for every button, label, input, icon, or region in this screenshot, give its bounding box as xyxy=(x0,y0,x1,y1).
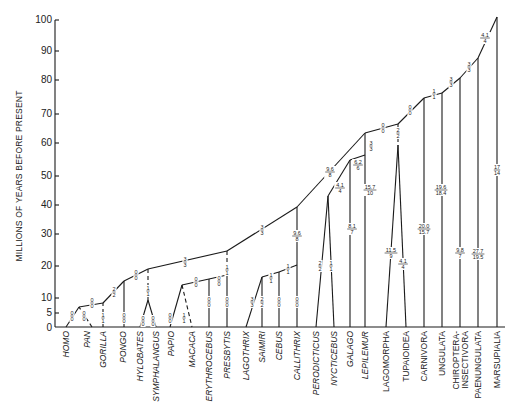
branch-label: 8.17 xyxy=(346,223,358,235)
y-tick-80: 80 xyxy=(41,74,53,85)
taxon-gorilla: GORILLA xyxy=(98,331,108,368)
branch-label: 33 xyxy=(259,224,264,236)
y-tick-0: 0 xyxy=(46,322,52,333)
branch-label: 11 xyxy=(285,263,290,275)
branch-label: 00 xyxy=(121,312,126,324)
y-tick-50: 50 xyxy=(41,170,53,181)
svg-text:8: 8 xyxy=(328,172,331,178)
taxon-macaca: MACACA xyxy=(187,331,197,368)
svg-text:7: 7 xyxy=(458,253,461,259)
y-tick-40: 40 xyxy=(41,199,53,210)
taxon-carnivora: CARNIVORA xyxy=(419,331,429,382)
taxon-insectivora: INSECTIVORA xyxy=(460,331,470,389)
svg-text:0: 0 xyxy=(217,281,220,287)
y-tick-10: 10 xyxy=(41,292,53,303)
svg-text:19.5: 19.5 xyxy=(473,254,484,260)
taxon-lagothrix: LAGOTHRIX xyxy=(241,331,251,380)
branch-label: 00 xyxy=(380,122,385,134)
taxon-saimiri: SAIMIRI xyxy=(257,330,267,362)
svg-text:1: 1 xyxy=(225,270,228,276)
y-tick-5: 5 xyxy=(46,307,52,318)
y-tick-30: 30 xyxy=(41,228,53,239)
svg-text:0: 0 xyxy=(122,318,125,324)
taxa-labels: HOMO PAN GORILLA PONGO HYLOBATES SYMPHAL… xyxy=(61,330,502,402)
branch-label: 00 xyxy=(150,315,155,327)
y-tick-60: 60 xyxy=(41,137,53,148)
branch-label: 11.59 xyxy=(384,247,399,259)
branch-label: 4.14 xyxy=(479,32,491,44)
taxon-perodicticus: PERODICTICUS xyxy=(311,331,321,396)
branch-label: 11 xyxy=(328,260,333,272)
svg-text:8: 8 xyxy=(295,236,298,242)
svg-text:4: 4 xyxy=(401,264,404,270)
branch-label: 00 xyxy=(193,276,198,288)
y-tick-100: 100 xyxy=(35,14,52,25)
svg-text:14: 14 xyxy=(494,170,500,176)
phylogenetic-tree-diagram: 100 90 80 70 60 50 40 30 20 10 5 0 MILLI… xyxy=(0,0,519,412)
svg-text:3: 3 xyxy=(449,82,452,88)
svg-text:0: 0 xyxy=(295,302,298,308)
branch-label: 00 xyxy=(89,297,94,309)
y-tick-20: 20 xyxy=(41,260,53,271)
svg-text:3: 3 xyxy=(250,302,253,308)
taxon-hylobates: HYLOBATES xyxy=(135,331,145,382)
svg-text:3: 3 xyxy=(467,67,470,73)
svg-text:0: 0 xyxy=(134,275,137,281)
svg-text:1: 1 xyxy=(286,269,289,275)
branch-label: 11 xyxy=(100,312,105,324)
branch-label: 9.68 xyxy=(291,230,303,242)
branch-label: 00 xyxy=(276,296,281,308)
svg-text:1: 1 xyxy=(329,266,332,272)
branch-label: 1714 xyxy=(493,164,501,176)
svg-text:0: 0 xyxy=(151,321,154,327)
svg-text:9: 9 xyxy=(389,253,392,259)
taxon-tupaioidea: TUPAIOIDEA xyxy=(401,331,411,382)
branch-label: 00 xyxy=(69,310,74,322)
svg-text:2: 2 xyxy=(318,266,321,272)
branch-label: 00 xyxy=(224,296,229,308)
branch-label: 00 xyxy=(407,104,412,116)
branch-label: 22 xyxy=(395,127,400,139)
branch-label: 00 xyxy=(81,310,86,322)
taxon-papio: PAPIO xyxy=(166,331,176,357)
svg-text:1: 1 xyxy=(182,318,185,324)
svg-text:4: 4 xyxy=(483,38,486,44)
svg-text:2: 2 xyxy=(396,133,399,139)
branch-label: 33 xyxy=(182,256,187,268)
branch-label: 33 xyxy=(466,61,471,73)
branch-label: 00 xyxy=(167,312,172,324)
svg-text:0: 0 xyxy=(194,282,197,288)
branch-label: 11 xyxy=(268,272,273,284)
svg-text:1: 1 xyxy=(146,291,149,297)
taxon-homo: HOMO xyxy=(61,331,71,358)
branch-label: 20.015.7 xyxy=(417,223,432,235)
svg-text:2: 2 xyxy=(112,292,115,298)
svg-text:1: 1 xyxy=(269,278,272,284)
branch-label: 11 xyxy=(431,88,436,100)
svg-text:3: 3 xyxy=(260,230,263,236)
branch-label: 4.14 xyxy=(334,182,346,194)
branch-label: 4.14 xyxy=(397,258,409,270)
svg-text:0: 0 xyxy=(168,318,171,324)
branch-label: 27.719.5 xyxy=(471,248,486,260)
taxon-nycticebus: NYCTICEBUS xyxy=(329,331,339,386)
taxon-paenungulata: PAENUNGULATA xyxy=(473,331,483,399)
svg-text:6: 6 xyxy=(356,165,359,171)
taxon-symphalangus: SYMPHALANGUS xyxy=(151,331,161,402)
svg-text:2: 2 xyxy=(260,302,263,308)
taxon-marsupialia: MARSUPIALIA xyxy=(492,331,502,388)
svg-text:10: 10 xyxy=(367,190,373,196)
branch-label: 22 xyxy=(317,260,322,272)
svg-text:0: 0 xyxy=(225,302,228,308)
y-axis-title: MILLIONS OF YEARS BEFORE PRESENT xyxy=(14,90,24,261)
branch-label: 22 xyxy=(111,286,116,298)
svg-text:7: 7 xyxy=(350,229,353,235)
svg-text:18.4: 18.4 xyxy=(436,190,447,196)
svg-text:3: 3 xyxy=(183,262,186,268)
branch-label: 9.68 xyxy=(324,166,336,178)
taxon-lepilemur: LEPILEMUR xyxy=(360,331,370,379)
taxon-presbytis: PRESBYTIS xyxy=(222,331,232,379)
taxon-ungulata: UNGULATA xyxy=(437,331,447,376)
branch-label: 00 xyxy=(294,296,299,308)
branch-label: 00 xyxy=(140,315,145,327)
